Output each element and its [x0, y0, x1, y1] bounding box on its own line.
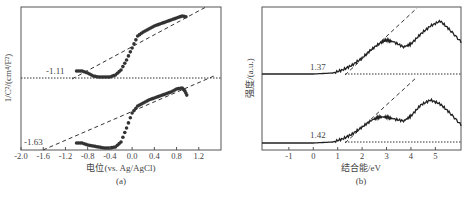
svg-text:5: 5 — [433, 151, 437, 161]
svg-text:2: 2 — [360, 151, 364, 161]
panel-b-tangent-lower — [345, 77, 417, 143]
panel-b-series-upper — [262, 21, 461, 75]
panel-a-series-upper — [75, 14, 188, 79]
panel-a-tangent-lower — [43, 76, 214, 150]
figure: -2.0-1.6-1.2-0.8-0.40.00.40.81.2 -1.11 -… — [0, 0, 464, 202]
svg-text:1.2: 1.2 — [193, 151, 204, 161]
svg-text:-1.6: -1.6 — [36, 151, 49, 161]
svg-text:1: 1 — [336, 151, 340, 161]
panel-b-x-ticks: -1012345 — [285, 147, 437, 161]
svg-text:-1.2: -1.2 — [59, 151, 72, 161]
panel-a-ylabel: 1/C²/(cm⁴/F²) — [3, 54, 13, 103]
panel-a-xlabel: 电位(vs. Ag/AgCl) — [86, 162, 155, 173]
panel-b-xlabel: 结合能/eV — [341, 162, 381, 173]
svg-text:0: 0 — [311, 151, 315, 161]
panel-b-tag: (b) — [356, 176, 367, 186]
panel-b-series-lower — [262, 99, 461, 143]
panel-a-series-lower — [75, 86, 189, 150]
panel-b-annotation-lower: 1.42 — [310, 130, 326, 140]
svg-text:3: 3 — [384, 151, 388, 161]
panel-b-ylabel: 强度/(a.u.) — [244, 58, 255, 98]
svg-text:0.8: 0.8 — [171, 151, 182, 161]
svg-text:-0.4: -0.4 — [103, 151, 117, 161]
svg-text:-2.0: -2.0 — [14, 151, 27, 161]
svg-text:4: 4 — [409, 151, 414, 161]
panel-a-annotation-lower: -1.63 — [24, 137, 43, 147]
svg-text:0.4: 0.4 — [149, 151, 160, 161]
panel-a-tag: (a) — [116, 176, 126, 186]
svg-text:-1: -1 — [285, 151, 292, 161]
svg-text:-0.8: -0.8 — [81, 151, 94, 161]
svg-text:0.0: 0.0 — [127, 151, 138, 161]
panel-b-annotation-upper: 1.37 — [310, 62, 326, 72]
panel-a-annotation-upper: -1.11 — [46, 66, 64, 76]
